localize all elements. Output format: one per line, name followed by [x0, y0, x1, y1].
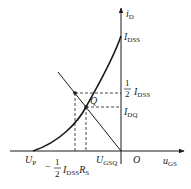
minus-half-idss-rs-label: − 1 2 IDSSRS — [45, 157, 89, 179]
up-label: UP — [25, 154, 36, 167]
idss-label: IDSS — [123, 31, 140, 44]
half-idss-label: 1 2 IDSS — [124, 78, 150, 99]
svg-text:2: 2 — [125, 89, 130, 99]
bias-line — [58, 72, 121, 151]
half-idss-point — [73, 91, 77, 95]
q-point — [84, 105, 88, 109]
ugsq-label: UGSQ — [96, 154, 117, 167]
svg-text:2: 2 — [55, 169, 60, 179]
transfer-characteristic-diagram: Q iD IDSS 1 2 IDSS IDQ UP UGSQ O uGS − 1… — [0, 0, 191, 189]
origin-label: O — [133, 154, 140, 165]
svg-text:IDSSRS: IDSSRS — [62, 164, 89, 177]
svg-text:1: 1 — [55, 157, 60, 167]
y-axis-label: iD — [126, 8, 134, 21]
svg-text:1: 1 — [125, 78, 130, 88]
idq-label: IDQ — [123, 106, 137, 119]
svg-text:IDSS: IDSS — [133, 86, 150, 99]
svg-text:−: − — [45, 161, 51, 172]
q-label: Q — [90, 95, 98, 106]
x-axis-label: uGS — [163, 155, 177, 168]
